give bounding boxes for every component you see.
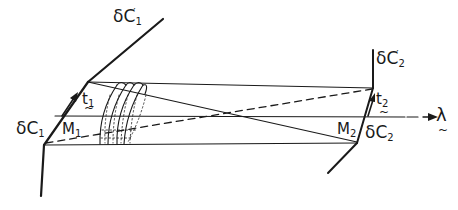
label-dC1-prime: δC′1 — [113, 8, 142, 27]
wavefront-arcs — [100, 83, 147, 145]
bottom-horizontal-line — [44, 143, 357, 145]
label-M2-base: M — [337, 120, 350, 138]
crossing-solid-diagonal — [88, 82, 357, 142]
label-lambda-base: λ — [436, 104, 447, 125]
label-lambda: λ — [436, 106, 447, 124]
surface-dC2 — [328, 143, 357, 173]
label-dC1-prime-base: δC — [113, 6, 135, 26]
label-t2-tilde: ~ — [379, 106, 389, 118]
label-dC1: δC1 — [16, 120, 45, 139]
label-dC2: δC2 — [365, 124, 394, 143]
label-dC2-prime-base: δC — [376, 48, 398, 68]
label-M1: M1 — [62, 122, 81, 139]
label-dC2-sub: 2 — [387, 132, 393, 143]
label-dC1-prime-sub: 1 — [136, 16, 142, 27]
label-lambda-tilde: ~ — [438, 124, 448, 136]
lambda-axis — [55, 116, 405, 117]
label-dC2-base: δC — [365, 122, 387, 142]
label-M2-sub: 2 — [350, 128, 356, 139]
label-dC1-base: δC — [16, 118, 38, 138]
label-dC2-prime: δC′2 — [376, 50, 405, 69]
label-M2: M2 — [337, 122, 356, 139]
t1-arrowhead-icon — [70, 92, 78, 102]
label-dC1-sub: 1 — [38, 128, 44, 139]
surface-dC1 — [41, 145, 44, 196]
surface-dC1-prime — [88, 19, 163, 82]
label-t1-tilde: ~ — [84, 102, 94, 114]
optics-diagram — [0, 0, 458, 210]
label-dC2-prime-sub: 2 — [399, 58, 405, 69]
label-M1-base: M — [62, 120, 75, 138]
label-M1-sub: 1 — [75, 128, 81, 139]
t1-arrow-shaft — [62, 98, 74, 116]
